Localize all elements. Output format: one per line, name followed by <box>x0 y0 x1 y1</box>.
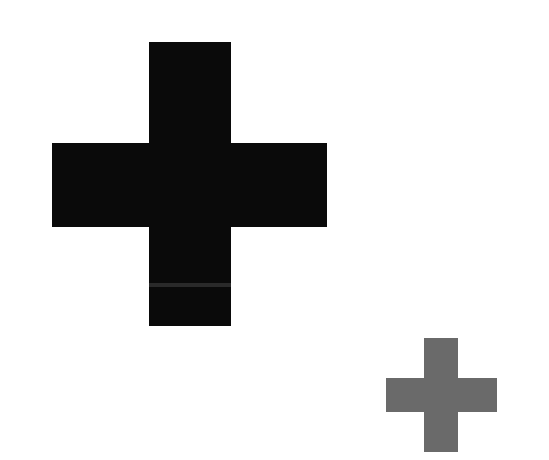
small-plus-horizontal-bar <box>386 378 497 412</box>
large-plus-stripe <box>149 283 231 287</box>
large-plus-horizontal-bar <box>52 143 327 227</box>
